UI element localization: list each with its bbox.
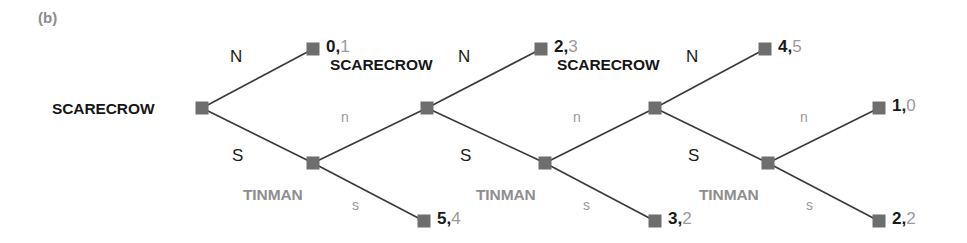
payoff-2-2: 2,2 xyxy=(892,210,916,227)
action-label-tinman2-south: s xyxy=(583,198,590,212)
payoff-4-5: 4,5 xyxy=(778,38,802,55)
payoff-5-4-player2: 4 xyxy=(451,209,460,228)
player-label-scarecrow-2: SCARECROW xyxy=(330,57,432,73)
terminal-node-term_1_0 xyxy=(873,102,886,115)
payoff-4-5-player2: 5 xyxy=(792,37,801,56)
payoff-0-1-player2: 1 xyxy=(340,37,349,56)
figure-panel: (b) SCARECROW SCARECROW SCARECROW TINMAN… xyxy=(0,0,967,243)
tree-edges xyxy=(202,49,879,221)
action-label-scarecrow2-north: N xyxy=(458,48,470,65)
action-label-scarecrow2-south: S xyxy=(460,147,471,164)
terminal-node-term_4_5 xyxy=(759,43,772,56)
tree-edge-tm2-to-term_3_2 xyxy=(545,163,655,221)
action-label-scarecrow3-south: S xyxy=(688,147,699,164)
action-label-tinman3-south: s xyxy=(806,198,813,212)
tree-edge-sc2-to-term_2_3 xyxy=(427,49,541,108)
payoff-0-1: 0,1 xyxy=(326,38,350,55)
payoff-3-2: 3,2 xyxy=(668,210,692,227)
decision-node-tm3[interactable] xyxy=(762,157,775,170)
player-label-scarecrow-3: SCARECROW xyxy=(557,57,659,73)
terminal-node-term_0_1 xyxy=(307,43,320,56)
player-label-tinman-1: TINMAN xyxy=(243,187,303,203)
tree-edge-sc1-to-term_0_1 xyxy=(202,49,313,108)
decision-node-tm1[interactable] xyxy=(307,157,320,170)
panel-label: (b) xyxy=(38,10,57,25)
tree-edge-tm3-to-term_1_0 xyxy=(768,108,879,163)
action-label-scarecrow3-north: N xyxy=(686,48,698,65)
player-label-tinman-2: TINMAN xyxy=(476,187,536,203)
tree-edge-tm1-to-sc2 xyxy=(313,108,427,163)
payoff-2-3: 2,3 xyxy=(554,38,578,55)
terminal-node-term_5_4 xyxy=(418,215,431,228)
tree-edge-tm2-to-sc3 xyxy=(545,108,655,163)
game-tree-graphic xyxy=(0,0,967,243)
payoff-2-3-player2: 3 xyxy=(568,37,577,56)
action-label-tinman2-north: n xyxy=(573,110,581,124)
decision-node-sc1[interactable] xyxy=(196,102,209,115)
tree-edge-tm3-to-term_2_2 xyxy=(768,163,879,221)
action-label-tinman3-north: n xyxy=(800,110,808,124)
action-label-tinman1-south: s xyxy=(352,198,359,212)
player-label-scarecrow-1: SCARECROW xyxy=(52,101,154,117)
action-label-scarecrow1-south: S xyxy=(232,147,243,164)
decision-node-tm2[interactable] xyxy=(539,157,552,170)
terminal-node-term_3_2 xyxy=(649,215,662,228)
tree-edge-sc2-to-tm2 xyxy=(427,108,545,163)
tree-edge-sc1-to-tm1 xyxy=(202,108,313,163)
payoff-2-2-player2: 2 xyxy=(906,209,915,228)
payoff-5-4: 5,4 xyxy=(437,210,461,227)
player-label-tinman-3: TINMAN xyxy=(699,187,759,203)
payoff-1-0: 1,0 xyxy=(892,97,916,114)
tree-edge-tm1-to-term_5_4 xyxy=(313,163,424,221)
action-label-tinman1-north: n xyxy=(341,110,349,124)
decision-node-sc2[interactable] xyxy=(421,102,434,115)
tree-edge-sc3-to-tm3 xyxy=(655,108,768,163)
decision-node-sc3[interactable] xyxy=(649,102,662,115)
payoff-3-2-player2: 2 xyxy=(682,209,691,228)
tree-edge-sc3-to-term_4_5 xyxy=(655,49,765,108)
action-label-scarecrow1-north: N xyxy=(230,48,242,65)
payoff-1-0-player2: 0 xyxy=(906,96,915,115)
terminal-node-term_2_2 xyxy=(873,215,886,228)
terminal-node-term_2_3 xyxy=(535,43,548,56)
